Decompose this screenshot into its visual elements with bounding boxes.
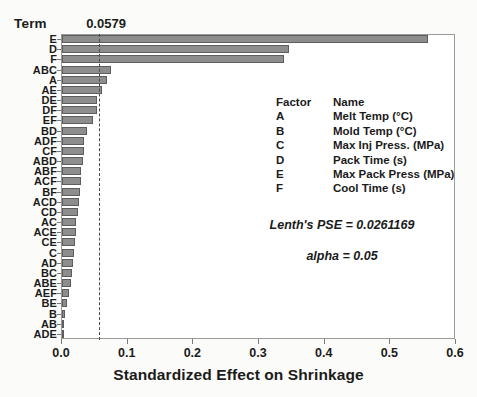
bar-ace (62, 228, 76, 236)
bar-acf (62, 177, 81, 185)
legend-factor-name: Cool Time (s) (333, 181, 406, 195)
bar-ac (62, 218, 76, 226)
legend-factor-name: Max Pack Press (MPa) (333, 167, 454, 181)
term-tick (57, 202, 61, 203)
term-label-ade: ADE (0, 329, 57, 339)
term-tick (57, 80, 61, 81)
legend-factor-code: C (276, 138, 333, 152)
legend-factor-code: D (276, 153, 333, 167)
term-axis-header: Term (14, 16, 47, 31)
factor-legend: Factor Name AMelt Temp (°C)BMold Temp (°… (276, 95, 454, 196)
term-tick (57, 303, 61, 304)
bar-bd (62, 127, 87, 135)
x-tick-label: 0.5 (381, 346, 398, 360)
term-tick (57, 263, 61, 264)
term-tick (57, 141, 61, 142)
term-axis-labels: EDFABCAAEDEDFEFBDADFCFABDABFACFBFACDCDAC… (0, 34, 57, 339)
legend-factor-name: Mold Temp (°C) (333, 124, 417, 138)
term-tick (57, 120, 61, 121)
legend-body: AMelt Temp (°C)BMold Temp (°C)CMax Inj P… (276, 109, 454, 195)
reference-line-value-label: 0.0579 (86, 16, 126, 31)
bar-c (62, 249, 74, 257)
term-tick (57, 283, 61, 284)
term-tick (57, 192, 61, 193)
x-tick-label: 0.4 (315, 346, 332, 360)
x-tick-label: 0.6 (446, 346, 463, 360)
bar-ade (62, 330, 64, 338)
x-tick (61, 339, 62, 344)
term-tick (57, 273, 61, 274)
bar-e (62, 35, 428, 43)
bar-cf (62, 147, 84, 155)
term-tick (57, 181, 61, 182)
significance-reference-line (99, 34, 100, 340)
x-tick-label: 0.3 (249, 346, 266, 360)
legend-factor-name: Melt Temp (°C) (333, 109, 413, 123)
term-tick (57, 151, 61, 152)
bar-f (62, 55, 284, 63)
legend-row-f: FCool Time (s) (276, 181, 454, 195)
legend-header-factor: Factor (276, 95, 333, 109)
x-tick (258, 339, 259, 344)
term-tick (57, 242, 61, 243)
bar-df (62, 106, 97, 114)
x-tick (389, 339, 390, 344)
term-tick (57, 59, 61, 60)
bar-abf (62, 167, 81, 175)
term-label-d: D (0, 44, 57, 54)
legend-factor-name: Pack Time (s) (333, 153, 407, 167)
term-tick (57, 161, 61, 162)
term-tick (57, 49, 61, 50)
term-tick (57, 253, 61, 254)
bar-abc (62, 66, 111, 74)
legend-row-b: BMold Temp (°C) (276, 124, 454, 138)
x-tick-label: 0.1 (118, 346, 135, 360)
term-tick (57, 90, 61, 91)
x-tick-label: 0.0 (52, 346, 69, 360)
pareto-chart-screenshot: Term 0.0579 EDFABCAAEDEDFEFBDADFCFABDABF… (0, 0, 477, 397)
x-tick (324, 339, 325, 344)
legend-factor-code: F (276, 181, 333, 195)
term-tick (57, 131, 61, 132)
bar-ab (62, 320, 64, 328)
bar-ce (62, 238, 75, 246)
term-tick (57, 232, 61, 233)
term-tick (57, 70, 61, 71)
x-tick (127, 339, 128, 344)
term-tick (57, 212, 61, 213)
legend-row-a: AMelt Temp (°C) (276, 109, 454, 123)
bar-d (62, 45, 289, 53)
bar-bc (62, 269, 72, 277)
alpha-annotation: alpha = 0.05 (306, 249, 377, 263)
legend-row-e: EMax Pack Press (MPa) (276, 167, 454, 181)
legend-row-d: DPack Time (s) (276, 153, 454, 167)
term-tick (57, 314, 61, 315)
bar-ae (62, 86, 102, 94)
bar-ad (62, 259, 73, 267)
bar-b (62, 310, 65, 318)
bar-bf (62, 188, 80, 196)
legend-factor-code: B (276, 124, 333, 138)
bar-aef (62, 289, 69, 297)
lenths-pse-annotation: Lenth's PSE = 0.0261169 (270, 218, 415, 232)
term-tick (57, 39, 61, 40)
x-tick (455, 339, 456, 344)
bar-de (62, 96, 97, 104)
term-tick (57, 110, 61, 111)
bar-abd (62, 157, 83, 165)
bar-acd (62, 198, 79, 206)
legend-factor-code: E (276, 167, 333, 181)
term-tick (57, 324, 61, 325)
bar-abe (62, 279, 71, 287)
legend-header-name: Name (333, 95, 364, 109)
legend-factor-name: Max Inj Press. (MPa) (333, 138, 444, 152)
legend-factor-code: A (276, 109, 333, 123)
bar-ef (62, 116, 93, 124)
x-axis-title: Standardized Effect on Shrinkage (0, 366, 477, 384)
legend-row-c: CMax Inj Press. (MPa) (276, 138, 454, 152)
x-tick (192, 339, 193, 344)
legend-header-row: Factor Name (276, 95, 454, 109)
x-axis-ticks (61, 339, 455, 345)
term-tick (57, 293, 61, 294)
term-tick (57, 171, 61, 172)
